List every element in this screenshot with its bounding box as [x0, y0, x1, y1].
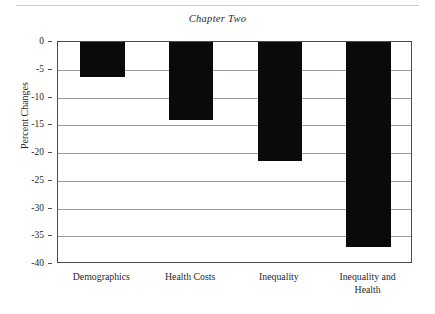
- y-axis-tick-mark: [48, 208, 52, 209]
- y-axis-tick-label: -35: [31, 230, 44, 240]
- x-axis-category-label: Demographics: [57, 270, 146, 283]
- x-axis-category-label-line: Health: [323, 283, 412, 296]
- y-axis-tick-mark: [48, 235, 52, 236]
- y-axis-tick-label: -30: [31, 203, 44, 213]
- bar: [80, 42, 124, 77]
- bar: [346, 42, 390, 247]
- bar: [258, 42, 302, 161]
- x-axis-category-labels: DemographicsHealth CostsInequalityInequa…: [57, 270, 412, 314]
- y-axis-tick-mark: [48, 263, 52, 264]
- y-axis-tick-label: -15: [31, 119, 44, 129]
- x-axis-category-label-line: Inequality and: [323, 270, 412, 283]
- x-axis-category-label: Inequality andHealth: [323, 270, 412, 296]
- y-axis-tick-label: -5: [36, 64, 44, 74]
- x-axis-category-label-line: Demographics: [57, 270, 146, 283]
- y-axis-tick-mark: [48, 124, 52, 125]
- bar-series: [58, 42, 411, 262]
- y-axis-tick-label: -40: [31, 258, 44, 268]
- x-axis-category-label: Health Costs: [146, 270, 235, 283]
- y-axis-tick-label: -10: [31, 92, 44, 102]
- y-axis-tick-mark: [48, 97, 52, 98]
- y-axis-tick-labels: 0-5-10-15-20-25-30-35-40: [0, 41, 52, 263]
- plot-area: [57, 41, 412, 263]
- y-axis-tick-label: -25: [31, 175, 44, 185]
- y-axis-tick-mark: [48, 69, 52, 70]
- y-axis-tick-mark: [48, 180, 52, 181]
- x-axis-category-label-line: Inequality: [235, 270, 324, 283]
- chart-page: Chapter Two Percent Changes 0-5-10-15-20…: [0, 0, 435, 314]
- x-axis-category-label: Inequality: [235, 270, 324, 283]
- x-axis-category-label-line: Health Costs: [146, 270, 235, 283]
- y-axis-tick-label: 0: [39, 36, 44, 46]
- y-axis-tick-mark: [48, 152, 52, 153]
- chart-title: Chapter Two: [0, 13, 435, 24]
- bar: [169, 42, 213, 120]
- y-axis-tick-mark: [48, 41, 52, 42]
- y-axis-tick-label: -20: [31, 147, 44, 157]
- page-top-rule: [16, 5, 419, 6]
